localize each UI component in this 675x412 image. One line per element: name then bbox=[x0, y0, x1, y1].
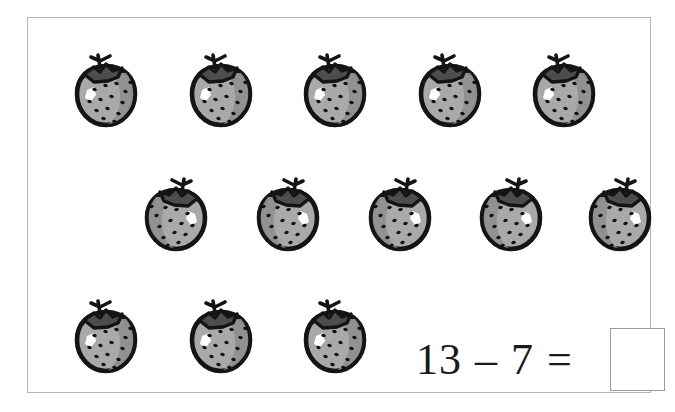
strawberry-icon bbox=[528, 49, 600, 131]
strawberry-icon bbox=[70, 295, 142, 377]
row-2 bbox=[28, 173, 650, 255]
equation: 13 – 7 = bbox=[416, 328, 573, 390]
row-1 bbox=[28, 49, 650, 131]
equation-equals-sign: = bbox=[547, 334, 573, 385]
strawberry-icon bbox=[70, 49, 142, 131]
strawberry-icon bbox=[185, 295, 257, 377]
equation-minuend: 13 bbox=[416, 334, 462, 385]
strawberry-icon bbox=[475, 173, 547, 255]
strawberry-icon bbox=[299, 295, 371, 377]
strawberry-icon bbox=[185, 49, 257, 131]
worksheet-frame: 13 – 7 = bbox=[27, 17, 651, 393]
answer-input-box[interactable] bbox=[610, 328, 665, 391]
strawberry-icon bbox=[414, 49, 486, 131]
strawberry-icon bbox=[364, 173, 436, 255]
strawberry-icon bbox=[299, 49, 371, 131]
worksheet-page: 13 – 7 = bbox=[0, 0, 675, 412]
equation-subtrahend: 7 bbox=[511, 334, 534, 385]
equation-operator-minus: – bbox=[475, 334, 498, 385]
strawberry-icon bbox=[252, 173, 324, 255]
strawberry-icon bbox=[584, 173, 656, 255]
strawberry-icon bbox=[140, 173, 212, 255]
